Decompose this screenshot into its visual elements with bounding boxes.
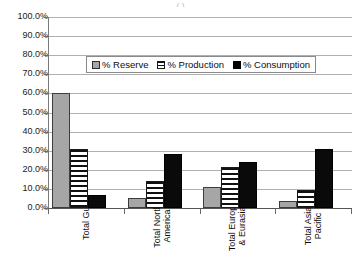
chart-title-cropped: ( )	[0, 0, 361, 7]
y-axis-tick-label: 20.0%	[2, 165, 48, 174]
x-axis-tick-mark	[48, 209, 49, 214]
bar-group	[52, 17, 106, 208]
bar-consumption[interactable]	[239, 162, 257, 208]
bar-group	[279, 17, 333, 208]
bar-production[interactable]	[221, 167, 239, 208]
bar-consumption[interactable]	[315, 149, 333, 208]
y-axis-tick-label: 40.0%	[2, 127, 48, 136]
bar-reserve[interactable]	[128, 198, 146, 208]
chart-legend: % Reserve % Production % Consumption	[86, 56, 316, 73]
bar-reserve[interactable]	[203, 187, 221, 208]
y-axis-tick-label: 90.0%	[2, 31, 48, 40]
x-axis-tick-mark	[124, 209, 125, 214]
x-axis-tick-mark	[200, 209, 201, 214]
y-axis-tick-label: 0.0%	[2, 203, 48, 212]
y-axis-tick-label: 100.0%	[2, 12, 48, 21]
bar-production[interactable]	[70, 149, 88, 208]
bar-reserve[interactable]	[52, 93, 70, 208]
x-axis-category-label: Total North America	[130, 216, 194, 278]
chart-container: ( ) 100.0%90.0%80.0%70.0%60.0%50.0%40.0%…	[0, 0, 361, 280]
legend-label-consumption: % Consumption	[243, 59, 310, 70]
legend-item-reserve[interactable]: % Reserve	[92, 59, 148, 70]
y-axis-tick-label: 70.0%	[2, 69, 48, 78]
x-axis-category-label: Total Gulf	[54, 216, 118, 278]
legend-swatch-reserve-icon	[92, 61, 100, 69]
x-axis-category-label: Total Asia Pacific	[281, 216, 345, 278]
legend-item-consumption[interactable]: % Consumption	[233, 59, 310, 70]
bar-group	[128, 17, 182, 208]
plot-area	[48, 17, 352, 209]
y-axis-tick-label: 50.0%	[2, 108, 48, 117]
x-axis-tick-mark	[351, 209, 352, 214]
x-axis-category-text: Total Asia Pacific	[303, 207, 323, 246]
y-axis-tick-label: 60.0%	[2, 88, 48, 97]
y-axis-tick-label: 10.0%	[2, 184, 48, 193]
chart-title-text: ( )	[176, 3, 185, 7]
legend-item-production[interactable]: % Production	[157, 59, 224, 70]
legend-swatch-consumption-icon	[233, 61, 241, 69]
bar-group	[203, 17, 257, 208]
x-axis-category-label: Total Europe & Eurasia	[205, 216, 269, 278]
x-axis-category-text: Total North America	[152, 204, 172, 248]
x-axis-tick-mark	[275, 209, 276, 214]
legend-label-production: % Production	[167, 59, 224, 70]
legend-label-reserve: % Reserve	[102, 59, 148, 70]
bar-consumption[interactable]	[88, 195, 106, 208]
y-axis-tick-label: 80.0%	[2, 50, 48, 59]
bar-consumption[interactable]	[164, 154, 182, 208]
bar-production[interactable]	[146, 181, 164, 208]
bar-reserve[interactable]	[279, 201, 297, 208]
y-axis-tick-label: 30.0%	[2, 146, 48, 155]
bar-production[interactable]	[297, 190, 315, 208]
x-axis-category-text: Total Europe & Eurasia	[227, 201, 247, 252]
legend-swatch-production-icon	[157, 61, 165, 69]
